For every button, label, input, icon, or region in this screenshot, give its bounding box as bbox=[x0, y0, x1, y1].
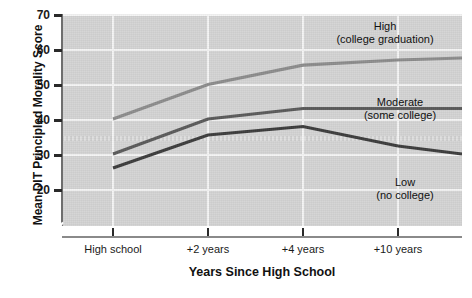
series-line-low-tail bbox=[398, 146, 462, 154]
series-annotation-low: Low (no college) bbox=[345, 176, 465, 202]
series-annotation-high-line2: (college graduation) bbox=[300, 33, 470, 46]
x-tick-high-school bbox=[112, 228, 114, 236]
x-axis-line bbox=[62, 236, 462, 238]
series-annotation-moderate-line1: Moderate bbox=[330, 96, 470, 109]
chart-figure: 70 60 50 40 30 20 High school +2 years +… bbox=[0, 0, 472, 298]
x-axis-title: Years Since High School bbox=[62, 265, 462, 279]
x-tick-label-plus4: +4 years bbox=[282, 243, 325, 255]
y-tick-40 bbox=[54, 119, 62, 122]
series-annotation-low-line1: Low bbox=[345, 176, 465, 189]
series-annotation-high-line1: High bbox=[300, 20, 470, 33]
x-tick-label-plus2: +2 years bbox=[187, 243, 230, 255]
x-tick-plus2 bbox=[207, 228, 209, 236]
y-tick-20 bbox=[54, 189, 62, 192]
series-annotation-low-line2: (no college) bbox=[345, 189, 465, 202]
series-annotation-high: High (college graduation) bbox=[300, 20, 470, 46]
series-line-high-tail bbox=[398, 58, 462, 60]
y-axis-title: Mean DIT Principled Morality Score bbox=[31, 5, 45, 245]
y-tick-30 bbox=[54, 154, 62, 157]
x-tick-label-plus10: +10 years bbox=[374, 243, 423, 255]
y-tick-50 bbox=[54, 84, 62, 87]
y-tick-70 bbox=[54, 14, 62, 17]
series-line-low bbox=[113, 127, 398, 169]
x-tick-label-high-school: High school bbox=[84, 243, 141, 255]
x-tick-plus4 bbox=[302, 228, 304, 236]
x-tick-plus10 bbox=[397, 228, 399, 236]
y-tick-60 bbox=[54, 49, 62, 52]
series-annotation-moderate: Moderate (some college) bbox=[330, 96, 470, 122]
y-axis-break-icon bbox=[56, 222, 68, 238]
series-annotation-moderate-line2: (some college) bbox=[330, 109, 470, 122]
